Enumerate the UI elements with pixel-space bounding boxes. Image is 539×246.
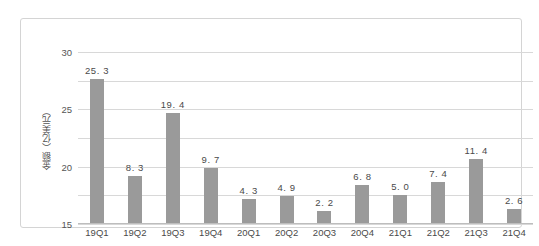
bar-slot: 8. 3 bbox=[116, 52, 154, 224]
bar-slot: 7. 4 bbox=[419, 52, 457, 224]
x-tick-label: 19Q3 bbox=[154, 227, 192, 243]
bar-slot: 25. 3 bbox=[78, 52, 116, 224]
bar-slot: 6. 8 bbox=[343, 52, 381, 224]
y-tick-label: 15 bbox=[61, 219, 72, 230]
y-axis-title: 金额（亿美元） bbox=[41, 107, 54, 170]
y-tick-label: 30 bbox=[61, 47, 72, 58]
gridline-0: 0 bbox=[78, 224, 533, 225]
bar-slot: 2. 2 bbox=[306, 52, 344, 224]
bar-value-label: 2. 2 bbox=[315, 197, 333, 208]
bar[interactable] bbox=[431, 182, 445, 224]
x-tick-label: 21Q4 bbox=[495, 227, 533, 243]
bar-slot: 5. 0 bbox=[381, 52, 419, 224]
bar[interactable] bbox=[204, 168, 218, 224]
x-tick-label: 20Q2 bbox=[268, 227, 306, 243]
bar-value-label: 4. 9 bbox=[277, 182, 295, 193]
x-tick-label: 20Q1 bbox=[230, 227, 268, 243]
bar-value-label: 19. 4 bbox=[161, 99, 185, 110]
bar-value-label: 6. 8 bbox=[353, 171, 371, 182]
x-axis-labels: 19Q119Q219Q319Q420Q120Q220Q320Q421Q121Q2… bbox=[78, 227, 533, 243]
bar-slot: 19. 4 bbox=[154, 52, 192, 224]
bar-value-label: 7. 4 bbox=[429, 168, 447, 179]
bar-slot: 11. 4 bbox=[457, 52, 495, 224]
bar[interactable] bbox=[469, 159, 483, 224]
x-tick-label: 21Q3 bbox=[457, 227, 495, 243]
y-tick-label: 20 bbox=[61, 161, 72, 172]
x-tick-label: 20Q4 bbox=[343, 227, 381, 243]
chart-container: 金额（亿美元） 302520151050 25. 38. 319. 49. 74… bbox=[20, 18, 522, 228]
bar-value-label: 5. 0 bbox=[391, 181, 409, 192]
bar[interactable] bbox=[393, 195, 407, 224]
bar-slot: 9. 7 bbox=[192, 52, 230, 224]
bar-slot: 4. 3 bbox=[230, 52, 268, 224]
plot-area: 302520151050 25. 38. 319. 49. 74. 34. 92… bbox=[78, 52, 533, 224]
bar[interactable] bbox=[128, 176, 142, 224]
y-tick-label: 25 bbox=[61, 104, 72, 115]
bar-slot: 2. 6 bbox=[495, 52, 533, 224]
bar[interactable] bbox=[507, 209, 521, 224]
bar-value-label: 25. 3 bbox=[85, 65, 109, 76]
bar[interactable] bbox=[280, 196, 294, 224]
x-tick-label: 21Q2 bbox=[419, 227, 457, 243]
x-tick-label: 19Q4 bbox=[192, 227, 230, 243]
bar[interactable] bbox=[166, 113, 180, 224]
x-tick-label: 19Q2 bbox=[116, 227, 154, 243]
x-axis-line bbox=[78, 223, 533, 224]
bar-value-label: 9. 7 bbox=[202, 154, 220, 165]
bar-series: 25. 38. 319. 49. 74. 34. 92. 26. 85. 07.… bbox=[78, 52, 533, 224]
bar[interactable] bbox=[242, 199, 256, 224]
x-tick-label: 20Q3 bbox=[306, 227, 344, 243]
bar[interactable] bbox=[90, 79, 104, 224]
bar-slot: 4. 9 bbox=[268, 52, 306, 224]
bar-value-label: 11. 4 bbox=[464, 145, 487, 156]
bar-value-label: 4. 3 bbox=[240, 185, 258, 196]
bar-value-label: 2. 6 bbox=[505, 195, 523, 206]
x-tick-label: 21Q1 bbox=[381, 227, 419, 243]
bar[interactable] bbox=[355, 185, 369, 224]
x-tick-label: 19Q1 bbox=[78, 227, 116, 243]
bar-value-label: 8. 3 bbox=[126, 162, 144, 173]
